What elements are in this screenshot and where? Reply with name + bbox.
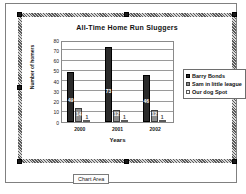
plot-area-wrap: 491417312146121 [61, 41, 174, 123]
bar-value-label: 46 [141, 98, 152, 104]
chart-object[interactable]: All-Time Home Run Sluggers 0102030405060… [18, 13, 236, 163]
y-axis-title[interactable]: Number of homers [29, 40, 35, 94]
bar-2001-series2[interactable] [121, 120, 128, 122]
legend-label: Our dog Spot [192, 89, 227, 95]
y-axis-tick: 30 [53, 90, 59, 95]
bar-2000-series2[interactable] [83, 120, 90, 122]
legend-swatch-icon [186, 74, 190, 78]
bar-value-label: 1 [157, 114, 168, 120]
bar-value-label: 49 [65, 97, 76, 103]
legend-item[interactable]: Sam in little league [186, 80, 242, 88]
resize-handle-top-center[interactable] [124, 12, 129, 17]
x-axis-tick: 2000 [61, 126, 99, 132]
bar-2002-series2[interactable] [159, 120, 166, 122]
chart-area-tooltip: Chart Area [73, 174, 109, 184]
y-axis-tick: 70 [53, 49, 59, 54]
y-axis-tick: 60 [53, 59, 59, 64]
resize-handle-bottom-center[interactable] [124, 159, 129, 164]
resize-handle-top-right[interactable] [232, 12, 237, 17]
chart-title[interactable]: All-Time Home Run Sluggers [23, 24, 231, 31]
y-axis-tick: 10 [53, 110, 59, 115]
legend-label: Sam in little league [192, 81, 242, 87]
chart-legend[interactable]: Barry BondsSam in little leagueOur dog S… [183, 69, 246, 99]
legend-swatch-icon [186, 82, 190, 86]
resize-handle-bottom-left[interactable] [17, 159, 22, 164]
resize-handle-top-left[interactable] [17, 12, 22, 17]
worksheet-page-frame: All-Time Home Run Sluggers 0102030405060… [5, 3, 237, 183]
x-axis-tick: 2001 [99, 126, 137, 132]
legend-item[interactable]: Our dog Spot [186, 88, 242, 96]
bar-value-label: 1 [81, 114, 92, 120]
resize-handle-bottom-right[interactable] [232, 159, 237, 164]
legend-item[interactable]: Barry Bonds [186, 72, 242, 80]
bars-layer: 491417312146121 [62, 42, 173, 122]
chart-canvas[interactable]: All-Time Home Run Sluggers 0102030405060… [23, 18, 231, 158]
y-axis-tick: 20 [53, 100, 59, 105]
y-axis-tick: 50 [53, 69, 59, 74]
y-axis-tick-labels: 01020304050607080 [39, 36, 59, 128]
resize-handle-middle-left[interactable] [17, 85, 22, 90]
legend-swatch-icon [186, 90, 190, 94]
legend-label: Barry Bonds [192, 73, 225, 79]
y-axis-tick: 80 [53, 39, 59, 44]
y-axis-tick: 40 [53, 80, 59, 85]
excel-chart-screenshot: All-Time Home Run Sluggers 0102030405060… [0, 0, 246, 194]
x-axis-tick-labels: 200020012002 [61, 126, 174, 136]
x-axis-title[interactable]: Years [61, 137, 174, 143]
bar-value-label: 73 [103, 88, 114, 94]
bar-value-label: 1 [119, 114, 130, 120]
y-axis-tick: 0 [56, 121, 59, 126]
plot-area[interactable]: 491417312146121 [61, 41, 174, 123]
x-axis-tick: 2002 [136, 126, 174, 132]
